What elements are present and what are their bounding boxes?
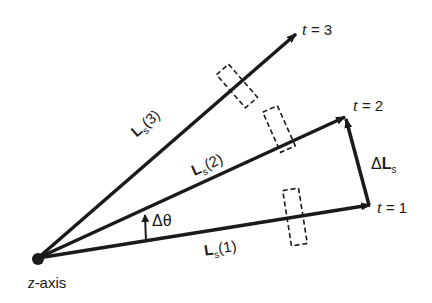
vector-ls2 (38, 117, 345, 258)
axis-var: z (28, 273, 35, 292)
delta-theta-arrow (145, 215, 146, 241)
delta-symbol: Δ (371, 155, 382, 172)
delta-theta-label: Δθ (152, 213, 172, 229)
vector-delta-ls (346, 119, 369, 205)
z-axis-label: z-axis (28, 274, 66, 291)
delta-ls-label: ΔLs (371, 156, 396, 172)
time-eq: = 1 (382, 199, 407, 216)
time-label-t1: t = 1 (377, 199, 407, 216)
argument: (1) (217, 237, 238, 257)
axis-text: -axis (35, 274, 67, 291)
symbol: L (382, 155, 392, 172)
time-eq: = 3 (307, 21, 332, 38)
subscript: s (391, 164, 396, 175)
dashed-element-2 (263, 106, 296, 153)
z-axis-origin (32, 253, 44, 265)
time-eq: = 2 (358, 97, 383, 114)
delta-theta-text: Δθ (152, 212, 172, 229)
time-label-t2: t = 2 (353, 97, 383, 114)
time-label-t3: t = 3 (302, 21, 332, 38)
